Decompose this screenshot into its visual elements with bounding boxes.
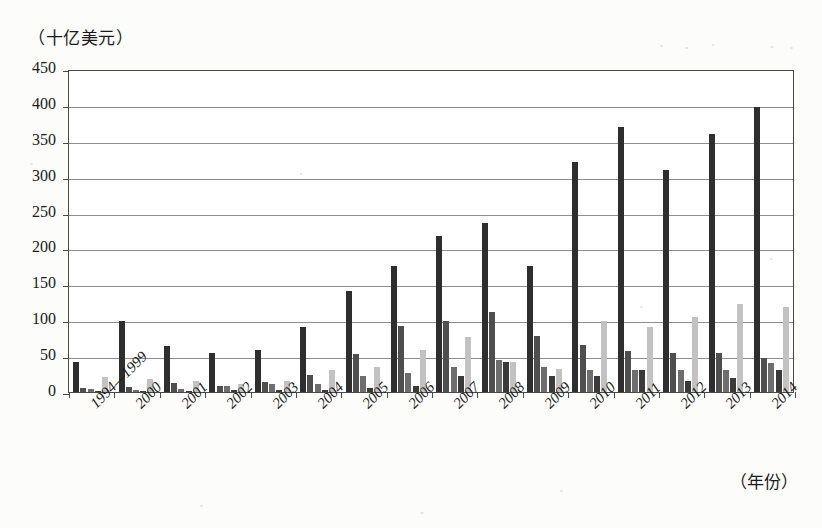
y-axis-unit-label: （十亿美元） <box>28 24 133 49</box>
bar <box>80 388 86 392</box>
bar <box>489 312 495 392</box>
bar <box>761 358 767 392</box>
y-axis-tick-label: 150 <box>12 274 56 292</box>
speckle <box>200 505 203 507</box>
bar <box>527 266 533 392</box>
bar-group <box>436 71 471 392</box>
speckle <box>685 47 688 49</box>
bar <box>133 390 139 392</box>
bar-group <box>663 71 698 392</box>
y-axis-tick-label: 0 <box>12 382 56 400</box>
y-axis-tick-label: 100 <box>12 310 56 328</box>
speckle <box>770 46 774 48</box>
y-axis-tick <box>63 71 69 72</box>
plot-area <box>68 70 794 393</box>
bar-group <box>346 71 381 392</box>
bar <box>217 386 223 392</box>
bar-group <box>391 71 426 392</box>
bar <box>178 389 184 392</box>
bar <box>346 291 352 392</box>
bar <box>300 327 306 392</box>
speckle <box>560 490 563 492</box>
bar <box>580 345 586 392</box>
bar-group <box>164 71 199 392</box>
bar <box>723 370 729 392</box>
bar-group <box>618 71 653 392</box>
bar <box>398 326 404 392</box>
speckle <box>790 47 793 49</box>
bar <box>625 351 631 392</box>
bar <box>443 321 449 392</box>
bar <box>126 387 132 392</box>
y-axis-tick-label: 350 <box>12 131 56 149</box>
bar-group <box>209 71 244 392</box>
bar <box>768 363 774 392</box>
bar <box>315 384 321 392</box>
bar <box>678 370 684 392</box>
bar-group <box>482 71 517 392</box>
y-axis-tick <box>63 143 69 144</box>
y-axis-tick <box>63 286 69 287</box>
bar <box>716 353 722 392</box>
bar <box>405 373 411 392</box>
y-axis-tick <box>63 250 69 251</box>
y-axis-tick-label: 400 <box>12 95 56 113</box>
chart-page: （十亿美元） 450400350300250200150100500 1994—… <box>0 0 822 528</box>
bar-group <box>300 71 335 392</box>
y-axis-tick <box>63 322 69 323</box>
bar <box>572 162 578 392</box>
bar <box>587 370 593 392</box>
bar-group <box>73 71 108 392</box>
bar-group <box>255 71 290 392</box>
bar <box>482 223 488 392</box>
bar <box>73 362 79 392</box>
bar <box>262 382 268 392</box>
bar-group <box>572 71 607 392</box>
y-axis-tick-label: 300 <box>12 167 56 185</box>
bar-group <box>119 71 154 392</box>
bar-group <box>527 71 562 392</box>
bar <box>209 353 215 392</box>
speckle <box>660 45 663 47</box>
bar <box>269 384 275 392</box>
bar-series-container <box>69 71 793 392</box>
bar <box>171 383 177 392</box>
speckle <box>30 163 33 165</box>
speckle <box>420 512 424 514</box>
bar <box>360 376 366 392</box>
bar <box>224 386 230 392</box>
bar <box>164 346 170 392</box>
bar <box>534 336 540 392</box>
y-axis-tick-label: 450 <box>12 59 56 77</box>
speckle <box>770 258 773 260</box>
y-axis-tick <box>63 358 69 359</box>
bar <box>451 367 457 392</box>
y-axis-tick-label: 250 <box>12 203 56 221</box>
speckle <box>712 44 714 46</box>
bar <box>391 266 397 392</box>
bar-group <box>709 71 744 392</box>
speckle <box>640 306 643 308</box>
y-axis-tick <box>63 179 69 180</box>
bar-group <box>754 71 789 392</box>
x-axis-unit-label: （年份） <box>730 468 798 493</box>
bar <box>709 134 715 392</box>
bar <box>618 127 624 392</box>
speckle <box>300 173 302 175</box>
bar <box>436 236 442 392</box>
x-axis-tick <box>69 392 70 398</box>
bar <box>632 370 638 392</box>
bar <box>307 375 313 392</box>
bar <box>670 353 676 392</box>
bar <box>255 350 261 392</box>
bar <box>353 354 359 392</box>
y-axis-tick-label: 50 <box>12 346 56 364</box>
bar <box>663 170 669 393</box>
bar <box>541 367 547 392</box>
y-axis-tick <box>63 215 69 216</box>
bar <box>496 360 502 392</box>
y-axis-tick <box>63 107 69 108</box>
bar <box>754 107 760 392</box>
bar <box>88 389 94 392</box>
y-axis-tick-label: 200 <box>12 238 56 256</box>
